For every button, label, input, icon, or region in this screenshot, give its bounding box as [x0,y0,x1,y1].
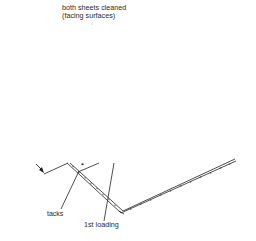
arrow-icon [36,164,44,173]
sheet-right-arm [119,159,236,214]
first-loading-label: 1st loading [84,221,119,229]
first-loading-line [104,163,114,221]
tacks-leader [61,171,79,209]
edge-line [44,163,68,174]
sheet-left-arm [67,163,123,213]
tack-mark [82,164,84,166]
caption-dot [92,24,93,25]
sheet-bonding-diagram [0,0,256,241]
upper-sheet-edge [78,163,99,172]
tacks-label: tacks [47,210,63,218]
